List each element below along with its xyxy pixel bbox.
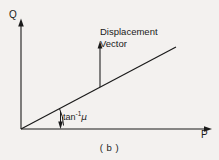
displacement-vector-annotation-line1: Displacement	[100, 26, 158, 37]
angle-label-symbol: μ	[81, 112, 87, 122]
axis-label-p: P	[201, 130, 208, 141]
angle-label-prefix: tan	[63, 112, 76, 122]
displacement-vector-annotation-line2: Vector	[100, 39, 158, 49]
arrow-up-icon	[18, 19, 24, 27]
angle-label: tan-1μ	[63, 111, 87, 122]
arrow-down-icon	[58, 122, 63, 130]
displacement-vector-line	[21, 47, 176, 129]
diagram-canvas	[0, 0, 219, 160]
figure-panel-b: Q P Displacement Vector tan-1μ ( b )	[0, 0, 219, 160]
displacement-vector-annotation: Displacement Vector	[100, 27, 158, 49]
axis-label-q: Q	[9, 10, 17, 21]
figure-caption: ( b )	[0, 143, 219, 153]
